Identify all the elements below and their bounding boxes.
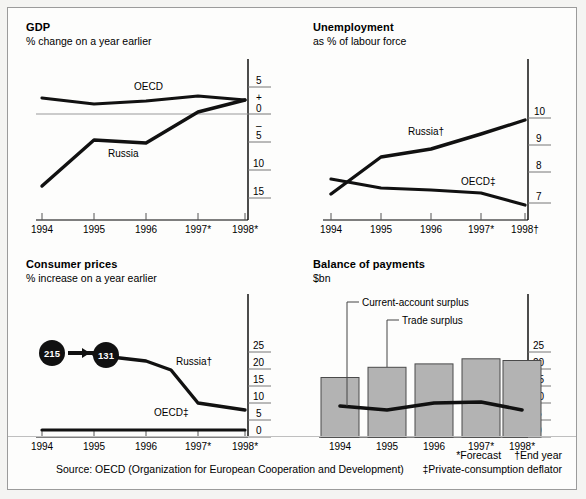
gdp-tick-label-6: 15 bbox=[253, 186, 265, 197]
balance-bar-1997 bbox=[462, 359, 500, 437]
consumer-prices-bubble-215-label: 215 bbox=[44, 348, 61, 359]
panel-balance-of-payments-title: Balance of payments bbox=[313, 258, 575, 271]
panel-unemployment-plot: 10 9 8 7 Russia† OECD‡ 1994 1995 1996 bbox=[313, 57, 575, 235]
gdp-x-label-2: 1996 bbox=[135, 224, 158, 235]
unemployment-x-label-3: 1997* bbox=[468, 224, 494, 235]
unemployment-series-oecd-line bbox=[331, 179, 525, 205]
panel-balance-of-payments-subtitle: $bn bbox=[313, 272, 575, 285]
figure-source: Source: OECD (Organization for European … bbox=[56, 463, 404, 475]
footnote-deflator: ‡Private-consumption deflator bbox=[423, 462, 563, 476]
unemployment-tick-label-0: 10 bbox=[534, 106, 546, 117]
unemployment-x-label-1: 1995 bbox=[370, 224, 393, 235]
unemployment-series-label-oecd: OECD‡ bbox=[461, 176, 495, 187]
panel-gdp-plot: 5 + 0 – 5 10 15 OECD Russia bbox=[26, 57, 291, 235]
consumer-prices-bubble-131-label: 131 bbox=[98, 350, 115, 361]
panel-consumer-prices: Consumer prices % increase on a year ear… bbox=[26, 258, 291, 453]
panel-balance-of-payments-plot: 25 20 15 10 5 0 Current-account surplus bbox=[313, 292, 575, 452]
panel-unemployment-subtitle: as % of labour force bbox=[313, 35, 575, 48]
consumer-prices-tick-label-5: 0 bbox=[256, 425, 262, 436]
unemployment-x-label-0: 1994 bbox=[320, 224, 343, 235]
balance-bar-1996 bbox=[415, 364, 453, 437]
balance-callout-label-trade: Trade surplus bbox=[402, 315, 463, 326]
gdp-tick-label-2: 0 bbox=[256, 103, 262, 114]
gdp-series-label-oecd: OECD bbox=[134, 81, 163, 92]
unemployment-tick-label-1: 9 bbox=[536, 133, 542, 144]
panel-gdp: GDP % change on a year earlier 5 + 0 – 5 bbox=[26, 21, 291, 236]
consumer-prices-series-russia-line bbox=[94, 355, 245, 410]
gdp-tick-label-4: 5 bbox=[256, 130, 262, 141]
balance-tick-label-0: 25 bbox=[533, 340, 545, 351]
unemployment-x-label-4: 1998† bbox=[511, 224, 539, 235]
footnote-forecast: *Forecast bbox=[456, 448, 501, 462]
gdp-tick-label-1: + bbox=[256, 92, 262, 103]
consumer-prices-series-label-russia: Russia† bbox=[176, 356, 212, 367]
footnote-end-year: †End year bbox=[514, 448, 562, 462]
balance-bar-1998 bbox=[503, 361, 541, 438]
panel-consumer-prices-subtitle: % increase on a year earlier bbox=[26, 272, 291, 285]
consumer-prices-tick-label-3: 10 bbox=[253, 391, 265, 402]
consumer-prices-tick-label-2: 15 bbox=[253, 374, 265, 385]
gdp-series-label-russia: Russia bbox=[108, 148, 139, 159]
unemployment-x-label-2: 1996 bbox=[420, 224, 443, 235]
consumer-prices-tick-label-0: 25 bbox=[253, 340, 265, 351]
consumer-prices-tick-label-4: 5 bbox=[256, 408, 262, 419]
gdp-x-label-3: 1997* bbox=[185, 224, 211, 235]
consumer-prices-tick-label-1: 20 bbox=[253, 357, 265, 368]
unemployment-tick-label-3: 7 bbox=[536, 191, 542, 202]
panel-balance-of-payments: Balance of payments $bn 25 20 15 10 5 0 bbox=[313, 258, 575, 453]
gdp-tick-label-0: 5 bbox=[256, 75, 262, 86]
balance-callout-leader-trade bbox=[387, 320, 399, 326]
unemployment-tick-label-2: 8 bbox=[536, 160, 542, 171]
unemployment-series-label-russia: Russia† bbox=[408, 126, 444, 137]
figure-footer: Source: OECD (Organization for European … bbox=[8, 436, 576, 489]
gdp-x-label-0: 1994 bbox=[31, 224, 54, 235]
gdp-x-label-1: 1995 bbox=[83, 224, 106, 235]
figure-footnotes: *Forecast†End year ‡Private-consumption … bbox=[423, 448, 563, 476]
gdp-x-label-4: 1998* bbox=[232, 224, 258, 235]
gdp-tick-label-5: 10 bbox=[253, 158, 265, 169]
panel-unemployment-title: Unemployment bbox=[313, 21, 575, 34]
panel-consumer-prices-plot: 25 20 15 10 5 0 215 bbox=[26, 292, 291, 452]
chart-figure-frame: GDP % change on a year earlier 5 + 0 – 5 bbox=[7, 7, 577, 490]
balance-callout-label-current-account: Current-account surplus bbox=[362, 297, 469, 308]
panel-unemployment: Unemployment as % of labour force 10 9 8… bbox=[313, 21, 575, 236]
balance-bar-1995 bbox=[368, 367, 406, 437]
consumer-prices-series-label-oecd: OECD‡ bbox=[154, 407, 188, 418]
gdp-series-oecd-line bbox=[42, 96, 245, 104]
panel-consumer-prices-title: Consumer prices bbox=[26, 258, 291, 271]
panel-gdp-subtitle: % change on a year earlier bbox=[26, 35, 291, 48]
panel-gdp-title: GDP bbox=[26, 21, 291, 34]
balance-callout-leader-current-account bbox=[347, 302, 359, 308]
gdp-series-russia-line bbox=[42, 100, 245, 186]
